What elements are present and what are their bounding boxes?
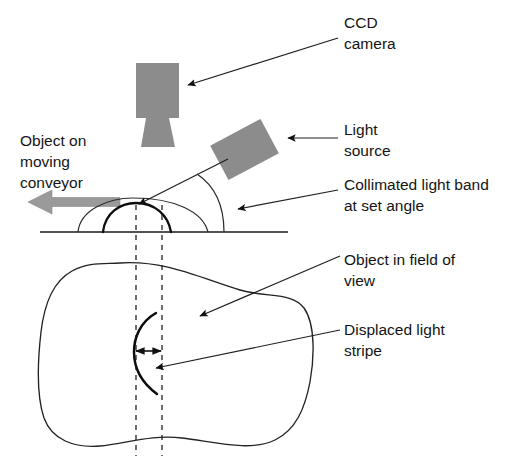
label-ccd-camera-line1: CCD bbox=[344, 14, 378, 31]
ccd-camera-lens bbox=[141, 118, 175, 147]
label-collimated-band-line2: at set angle bbox=[344, 197, 424, 214]
incident-ray-line bbox=[139, 159, 228, 204]
light-band-on-object bbox=[103, 203, 171, 232]
object-top-view-outline bbox=[38, 263, 313, 447]
label-object-in-view-line2: view bbox=[344, 272, 376, 289]
label-displaced-stripe-line1: Displaced light bbox=[344, 321, 445, 338]
label-conveyor-line2: moving bbox=[20, 153, 70, 170]
ccd-camera-group bbox=[136, 63, 179, 147]
label-conveyor: Object on moving conveyor bbox=[20, 132, 86, 191]
label-collimated-band: Collimated light band at set angle bbox=[344, 176, 489, 214]
label-collimated-band-line1: Collimated light band bbox=[344, 176, 489, 193]
diagram-canvas: CCD camera Light source Collimated light… bbox=[0, 0, 526, 462]
leader-object-in-view bbox=[200, 256, 340, 316]
incident-light-ray bbox=[139, 159, 228, 204]
label-conveyor-line3: conveyor bbox=[20, 174, 83, 191]
leader-ccd-camera bbox=[188, 38, 338, 85]
light-source-group bbox=[210, 119, 279, 180]
label-light-source-line2: source bbox=[344, 142, 391, 159]
ccd-camera-body bbox=[136, 63, 179, 118]
light-source-block bbox=[210, 119, 279, 180]
label-displaced-stripe-line2: stripe bbox=[344, 342, 382, 359]
set-angle-arc bbox=[197, 174, 224, 232]
label-light-source-line1: Light bbox=[344, 121, 378, 138]
label-conveyor-line1: Object on bbox=[20, 132, 86, 149]
label-object-in-view-line1: Object in field of bbox=[344, 251, 456, 268]
label-object-in-view: Object in field of view bbox=[344, 251, 456, 289]
label-ccd-camera-line2: camera bbox=[344, 35, 396, 52]
displaced-stripe-arc bbox=[134, 313, 157, 394]
structured-light-diagram: CCD camera Light source Collimated light… bbox=[0, 0, 526, 462]
label-ccd-camera: CCD camera bbox=[344, 14, 396, 52]
label-light-source: Light source bbox=[344, 121, 391, 159]
label-displaced-stripe: Displaced light stripe bbox=[344, 321, 445, 359]
leader-collimated-band bbox=[238, 190, 338, 209]
